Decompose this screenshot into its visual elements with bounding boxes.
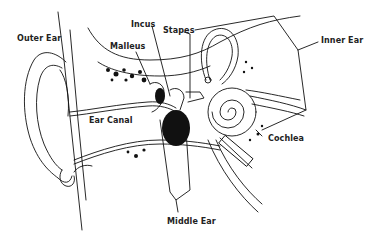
ear-canal-walls	[70, 102, 220, 164]
incus-leader	[152, 26, 170, 96]
label-inner-ear: Inner Ear	[321, 36, 363, 45]
label-outer-ear: Outer Ear	[17, 34, 61, 43]
leader-2	[70, 30, 86, 200]
label-stapes: Stapes	[163, 26, 195, 35]
semicircular-canals	[201, 28, 238, 84]
cochlea-spiral	[208, 88, 256, 136]
pinna	[24, 53, 92, 187]
label-ear-canal: Ear Canal	[89, 116, 133, 125]
label-cochlea: Cochlea	[268, 134, 304, 143]
label-middle-ear: Middle Ear	[167, 217, 216, 226]
label-incus: Incus	[131, 20, 155, 29]
eustachian-tube	[208, 136, 262, 212]
auditory-nerve	[246, 90, 306, 116]
label-malleus: Malleus	[110, 42, 145, 51]
middle-ear-leader	[176, 200, 178, 212]
temporal-bone	[88, 16, 300, 60]
stapes-leader	[184, 32, 190, 98]
inner-ear-leader	[298, 42, 318, 50]
